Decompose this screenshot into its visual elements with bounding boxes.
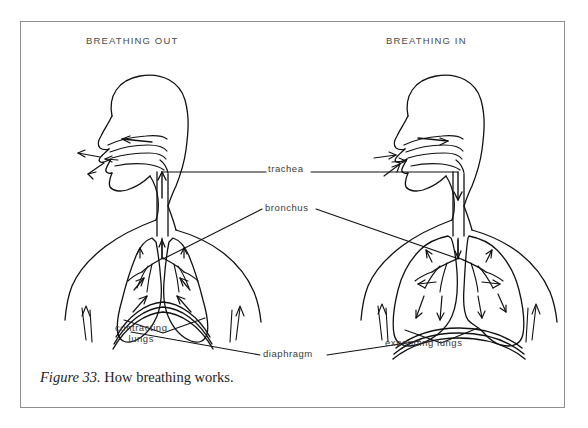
label-contracting-lungs: contracting lungs (115, 323, 168, 344)
figure-caption-number: Figure 33. (40, 369, 101, 385)
figure-container: BREATHING OUT BREATHING IN trachea bronc… (0, 0, 588, 428)
label-contracting-lungs-line1: contracting (115, 323, 168, 334)
label-expanding-lungs: expanding lungs (385, 338, 462, 349)
label-trachea: trachea (268, 164, 304, 175)
panel-heading-breathing-in: BREATHING IN (386, 35, 467, 46)
panel-heading-breathing-out: BREATHING OUT (86, 35, 178, 46)
label-bronchus: bronchus (265, 203, 308, 214)
figure-caption-text: How breathing works. (104, 369, 233, 385)
figure-caption: Figure 33. How breathing works. (40, 369, 234, 386)
label-diaphragm: diaphragm (263, 349, 313, 360)
label-contracting-lungs-line2: lungs (115, 334, 168, 345)
